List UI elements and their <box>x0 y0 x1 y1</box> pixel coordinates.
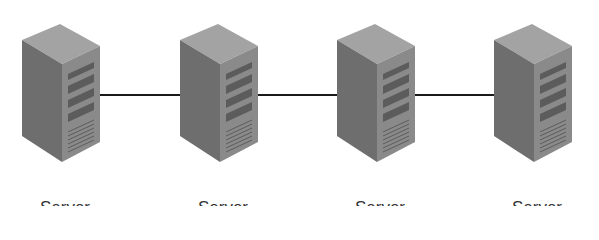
server-label: Server <box>325 198 435 206</box>
server-label: Server <box>10 198 120 206</box>
server-tower-icon <box>168 20 278 170</box>
server-label: Server <box>482 198 592 206</box>
server-tower-icon <box>10 20 120 170</box>
server-tower-icon <box>325 20 435 170</box>
server-node-4[interactable]: Server <box>482 20 592 206</box>
server-node-2[interactable]: Server <box>168 20 278 206</box>
server-node-1[interactable]: Server <box>10 20 120 206</box>
server-tower-icon <box>482 20 592 170</box>
server-node-3[interactable]: Server <box>325 20 435 206</box>
server-label: Server <box>168 198 278 206</box>
